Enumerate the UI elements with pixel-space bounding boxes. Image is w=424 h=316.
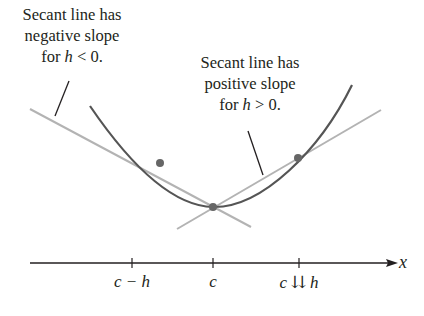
secant-line-positive-slope: [177, 110, 381, 229]
point-c-minus-h: [156, 159, 164, 167]
annotation-line: Secant line has: [182, 52, 318, 73]
variable-h: h: [243, 95, 251, 114]
pointer-right: [248, 131, 263, 175]
annotation-text: > 0.: [251, 95, 281, 114]
annotation-line: Secant line has: [4, 4, 140, 25]
annotation-line: for h > 0.: [182, 94, 318, 115]
tick-label-c: c: [209, 272, 217, 292]
annotation-line: for h < 0.: [4, 46, 140, 67]
annotation-positive-slope: Secant line has positive slope for h > 0…: [182, 52, 318, 115]
annotation-text: < 0.: [73, 47, 103, 66]
variable-h: h: [65, 47, 73, 66]
annotation-text: for: [219, 95, 242, 114]
pointer-left: [55, 81, 69, 116]
annotation-line: negative slope: [4, 25, 140, 46]
annotation-text: for: [41, 47, 64, 66]
annotation-line: positive slope: [182, 73, 318, 94]
x-axis-label: x: [399, 252, 407, 273]
tick-label-c-minus-h: c − h: [114, 272, 150, 292]
point-c-plus-h: [294, 154, 302, 162]
point-c: [209, 203, 217, 211]
annotation-negative-slope: Secant line has negative slope for h < 0…: [4, 4, 140, 67]
tick-label-c-plus-h: c ⇊ h: [280, 272, 319, 293]
